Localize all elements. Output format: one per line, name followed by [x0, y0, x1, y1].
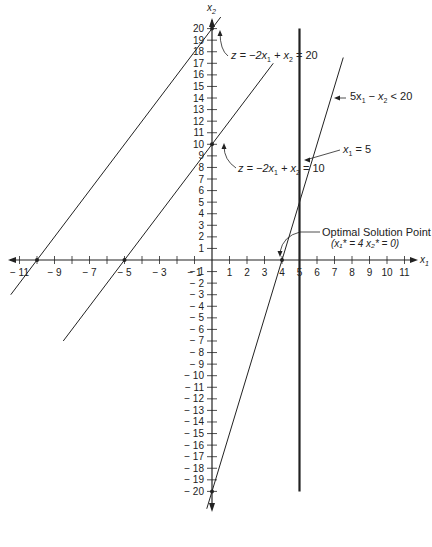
svg-text:− 8: − 8 [190, 347, 205, 358]
svg-text:− 2: − 2 [190, 278, 205, 289]
svg-text:4: 4 [198, 208, 204, 219]
z10-label: z = −2x1 + x2 = 10 [238, 162, 325, 176]
svg-text:− 5: − 5 [190, 312, 205, 323]
svg-text:2: 2 [198, 231, 204, 242]
x1-equals-5-label: x1 = 5 [343, 143, 371, 157]
svg-text:17: 17 [193, 58, 205, 69]
svg-text:20: 20 [193, 23, 205, 34]
svg-text:− 1: − 1 [190, 266, 205, 277]
svg-text:− 9: − 9 [47, 267, 62, 278]
svg-text:− 11: − 11 [10, 267, 29, 278]
svg-text:11: 11 [194, 127, 205, 138]
svg-text:12: 12 [193, 116, 205, 127]
svg-text:19: 19 [193, 35, 205, 46]
svg-text:− 13: − 13 [184, 405, 204, 416]
svg-text:− 10: − 10 [184, 370, 204, 381]
svg-text:5: 5 [198, 197, 204, 208]
optimal-point-detail: (x₁* = 4 x₂* = 0) [331, 238, 399, 249]
svg-text:− 19: − 19 [184, 474, 204, 485]
svg-text:− 5: − 5 [117, 267, 132, 278]
svg-text:9: 9 [367, 267, 373, 278]
svg-text:3: 3 [198, 220, 204, 231]
svg-text:5: 5 [297, 267, 303, 278]
z20-label: z = −2x1 + x2 = 20 [231, 49, 318, 63]
svg-text:6: 6 [314, 267, 320, 278]
svg-text:− 16: − 16 [184, 440, 204, 451]
svg-text:9: 9 [198, 150, 204, 161]
svg-text:8: 8 [198, 162, 204, 173]
svg-text:4: 4 [279, 267, 285, 278]
svg-text:18: 18 [193, 46, 205, 57]
optimal-point-title: Optimal Solution Point [322, 226, 431, 238]
svg-text:− 11: − 11 [185, 382, 204, 393]
svg-text:− 9: − 9 [190, 359, 205, 370]
svg-text:6: 6 [198, 185, 204, 196]
svg-text:2: 2 [244, 267, 250, 278]
x1-axis-label: x1 [420, 254, 429, 267]
x2-axis-label: x2 [207, 2, 216, 15]
svg-text:13: 13 [193, 104, 205, 115]
svg-text:− 20: − 20 [184, 486, 204, 497]
svg-text:7: 7 [332, 267, 338, 278]
svg-text:− 7: − 7 [190, 335, 205, 346]
svg-text:11: 11 [399, 267, 410, 278]
lp-graph: − 11− 9− 7− 5− 3− 1123456789101120191817… [0, 0, 432, 547]
svg-text:− 14: − 14 [184, 416, 204, 427]
svg-text:3: 3 [262, 267, 268, 278]
svg-text:− 3: − 3 [152, 267, 167, 278]
svg-text:− 3: − 3 [190, 289, 205, 300]
svg-text:16: 16 [193, 69, 205, 80]
svg-text:− 7: − 7 [82, 267, 97, 278]
svg-text:1: 1 [227, 267, 233, 278]
svg-text:1: 1 [198, 243, 204, 254]
svg-text:− 12: − 12 [184, 393, 204, 404]
svg-text:7: 7 [198, 174, 204, 185]
svg-text:− 18: − 18 [184, 463, 204, 474]
svg-text:10: 10 [381, 267, 393, 278]
annotation-arrows [218, 30, 347, 257]
svg-text:8: 8 [349, 267, 355, 278]
svg-text:− 4: − 4 [190, 301, 205, 312]
svg-text:10: 10 [193, 139, 205, 150]
svg-text:− 15: − 15 [184, 428, 204, 439]
svg-text:15: 15 [193, 81, 205, 92]
svg-text:− 17: − 17 [184, 451, 204, 462]
svg-text:14: 14 [193, 93, 205, 104]
constraint-label: 5x1 − x2 < 20 [350, 90, 412, 104]
svg-text:− 6: − 6 [190, 324, 205, 335]
